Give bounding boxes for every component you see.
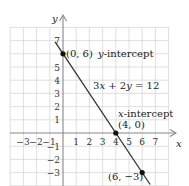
- x-tick: −2: [29, 137, 42, 147]
- x-tick-labels: −3 −2 −1 1 2 3 4 5 6 7: [16, 137, 158, 147]
- point-6-neg3-label: (6, −3): [108, 171, 143, 182]
- x-tick: 2: [87, 137, 93, 147]
- x-tick: 7: [153, 137, 159, 147]
- point-y-intercept-label: (0, 6) y-intercept: [66, 48, 153, 59]
- x-tick: 3: [100, 137, 106, 147]
- x-intercept-note: x-intercept: [118, 108, 173, 119]
- x-tick: 5: [126, 137, 132, 147]
- y-tick: 5: [54, 63, 60, 73]
- y-tick: 4: [54, 76, 60, 86]
- point-x-intercept-label: (4, 0): [118, 119, 145, 130]
- y-tick: 2: [54, 102, 60, 112]
- point-x-intercept: [113, 130, 118, 135]
- point-y-intercept: [60, 51, 65, 56]
- y-axis-label: y: [51, 13, 58, 24]
- x-tick: 1: [73, 137, 79, 147]
- x-tick: 6: [139, 137, 145, 147]
- y-tick-labels: 7 5 4 3 2 1 −1 −2 −3: [47, 36, 61, 178]
- x-tick: −3: [16, 137, 30, 147]
- x-axis-label: x: [176, 138, 182, 149]
- y-tick: 1: [54, 115, 60, 125]
- y-tick: −3: [47, 168, 61, 178]
- x-tick: 4: [113, 137, 119, 147]
- y-tick: 3: [54, 89, 60, 99]
- equation-label: 3x + 2y = 12: [93, 80, 159, 91]
- coordinate-plane: y x −3 −2 −1 1 2 3 4 5 6 7 7 5 4 3 2 1 −…: [0, 0, 189, 186]
- y-tick: −1: [47, 142, 60, 152]
- y-tick: −2: [47, 155, 60, 165]
